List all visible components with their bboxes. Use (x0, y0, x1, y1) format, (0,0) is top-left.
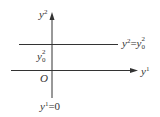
diagram-canvas: y2 y2=y20 y20 O y1 y1=0 (0, 0, 160, 117)
horizontal-axis-arrowhead-icon (130, 68, 138, 73)
origin-label: O (40, 73, 48, 84)
vertical-axis-index: 2 (44, 8, 48, 16)
axis-eq-value: 0 (55, 100, 61, 112)
axes-graphic (0, 0, 160, 117)
intercept-label: y20 (37, 51, 48, 62)
vertical-axis-arrowhead-icon (50, 12, 55, 20)
intercept-indices: 20 (42, 51, 48, 62)
vertical-axis-label: y2 (39, 9, 47, 20)
intercept-sub: 0 (42, 57, 46, 64)
level-rhs-indices: 20 (142, 38, 148, 49)
intercept-sup: 2 (42, 49, 46, 56)
level-rhs-sub: 0 (142, 44, 146, 51)
horizontal-axis-index: 1 (146, 65, 150, 73)
horizontal-axis-label: y1 (141, 66, 149, 77)
level-rhs-sup: 2 (142, 36, 146, 43)
level-line-label: y2=y20 (122, 38, 148, 49)
axis-equation-label: y1=0 (40, 101, 60, 112)
